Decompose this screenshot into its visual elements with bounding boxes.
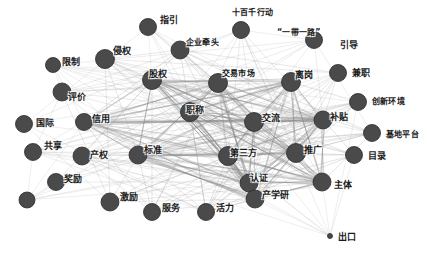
node-circle[interactable] (246, 190, 264, 208)
node-circle[interactable] (73, 147, 91, 165)
graph-node[interactable] (181, 103, 200, 122)
graph-node[interactable] (25, 144, 42, 161)
graph-node[interactable] (287, 144, 306, 163)
node-circle[interactable] (219, 147, 238, 166)
node-circle[interactable] (364, 125, 381, 142)
node-circle[interactable] (306, 32, 323, 49)
node-circle[interactable] (233, 22, 250, 39)
graph-node[interactable] (198, 204, 215, 221)
graph-node[interactable] (209, 74, 228, 93)
graph-node[interactable] (16, 116, 33, 133)
graph-node[interactable] (346, 147, 363, 164)
node-circle[interactable] (76, 114, 93, 131)
node-circle[interactable] (313, 173, 331, 191)
graph-node[interactable] (364, 125, 381, 142)
node-circle[interactable] (19, 192, 35, 208)
node-circle[interactable] (330, 65, 347, 82)
graph-node[interactable] (101, 193, 119, 211)
node-circle[interactable] (181, 103, 200, 122)
graph-node[interactable] (350, 94, 367, 111)
node-circle[interactable] (96, 50, 115, 69)
graph-edge (330, 155, 354, 236)
node-circle[interactable] (140, 19, 157, 36)
graph-node[interactable] (129, 146, 147, 164)
graph-edge (139, 153, 227, 159)
node-circle[interactable] (16, 116, 33, 133)
graph-node[interactable] (46, 58, 61, 73)
node-circle[interactable] (350, 94, 367, 111)
graph-node[interactable] (76, 114, 93, 131)
node-circle[interactable] (314, 111, 332, 129)
node-circle[interactable] (198, 204, 215, 221)
graph-node[interactable] (330, 65, 347, 82)
graph-node[interactable] (240, 174, 258, 192)
node-circle[interactable] (171, 41, 189, 59)
graph-edge (105, 50, 180, 59)
node-circle[interactable] (53, 83, 71, 101)
graph-node[interactable] (306, 32, 323, 49)
node-circle[interactable] (144, 204, 161, 221)
node-circle[interactable] (240, 174, 258, 192)
graph-node[interactable] (140, 19, 157, 36)
node-circle[interactable] (209, 74, 228, 93)
node-circle[interactable] (282, 73, 301, 92)
graph-node[interactable] (19, 192, 35, 208)
network-graph-figure: 指引十百千行动“一带一路”企业牵头引导侵权限制股权交易市场离岗兼职评价创新环境国… (0, 0, 439, 262)
graph-canvas (0, 0, 439, 262)
graph-node[interactable] (233, 22, 250, 39)
graph-node[interactable] (96, 50, 115, 69)
node-circle[interactable] (46, 58, 61, 73)
graph-node[interactable] (328, 234, 333, 239)
node-circle[interactable] (101, 193, 119, 211)
graph-node[interactable] (48, 174, 65, 191)
graph-edge (82, 156, 206, 212)
node-circle[interactable] (48, 174, 65, 191)
graph-node[interactable] (53, 83, 71, 101)
graph-node[interactable] (73, 147, 91, 165)
graph-node[interactable] (314, 111, 332, 129)
graph-node[interactable] (219, 147, 238, 166)
node-circle[interactable] (328, 234, 333, 239)
graph-node[interactable] (144, 204, 161, 221)
graph-node[interactable] (245, 113, 264, 132)
edge-layer (24, 27, 372, 236)
graph-node[interactable] (246, 190, 264, 208)
graph-node[interactable] (143, 71, 162, 90)
graph-edge (241, 30, 314, 40)
node-circle[interactable] (25, 144, 42, 161)
graph-edge (105, 59, 338, 73)
node-circle[interactable] (245, 113, 264, 132)
graph-node[interactable] (171, 41, 189, 59)
node-circle[interactable] (143, 71, 162, 90)
graph-node[interactable] (282, 73, 301, 92)
graph-edge (330, 102, 358, 236)
node-circle[interactable] (129, 146, 147, 164)
graph-edge (255, 199, 330, 236)
node-circle[interactable] (346, 147, 363, 164)
node-circle[interactable] (287, 144, 306, 163)
graph-node[interactable] (313, 173, 331, 191)
